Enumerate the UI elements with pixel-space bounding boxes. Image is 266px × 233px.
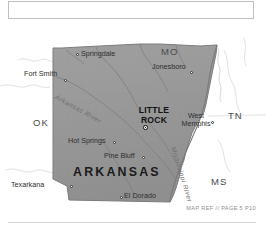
city-marker-el-dorado[interactable] (120, 196, 123, 199)
city-label-fort-smith: Fort Smith (24, 70, 57, 77)
capital-marker-little-rock[interactable] (143, 125, 148, 130)
map-reference-credit: MAP REF // PAGE 5 P10 (186, 205, 256, 211)
mississippi-river-detail (218, 48, 221, 102)
city-marker-west-memphis[interactable] (211, 121, 214, 124)
city-marker-pine-bluff[interactable] (142, 156, 145, 159)
state-label-tn: TN (228, 111, 243, 121)
state-label-ok: OK (33, 118, 49, 128)
city-label-west-memphis-line2: Memphis (178, 120, 214, 128)
city-label-pine-bluff: Pine Bluff (104, 152, 135, 159)
city-marker-jonesboro[interactable] (190, 71, 193, 74)
capital-label-little-rock: LITTLE ROCK (132, 106, 176, 125)
city-label-hot-springs: Hot Springs (68, 137, 106, 144)
city-label-springdale: Springdale (81, 50, 115, 57)
city-label-west-memphis: West Memphis (178, 112, 214, 128)
city-label-jonesboro: Jonesboro (152, 63, 186, 70)
top-caption-box (8, 1, 254, 19)
map-page: MO TN MS LA OK Arkansas River Mississipp… (0, 0, 266, 233)
city-marker-fort-smith[interactable] (64, 79, 67, 82)
city-marker-texarkana[interactable] (70, 185, 73, 188)
city-label-el-dorado: El Dorado (124, 192, 156, 199)
state-label-ms: MS (211, 177, 227, 187)
map-canvas[interactable]: MO TN MS LA OK Arkansas River Mississipp… (0, 20, 266, 215)
bottom-divider (8, 222, 256, 223)
state-label-la: LA (116, 214, 130, 215)
capital-label-line2: ROCK (132, 116, 176, 126)
city-marker-hot-springs[interactable] (113, 141, 116, 144)
city-label-texarkana: Texarkana (11, 181, 44, 188)
city-marker-springdale[interactable] (76, 53, 79, 56)
state-name-arkansas: ARKANSAS (73, 166, 161, 178)
state-label-mo: MO (161, 47, 178, 57)
